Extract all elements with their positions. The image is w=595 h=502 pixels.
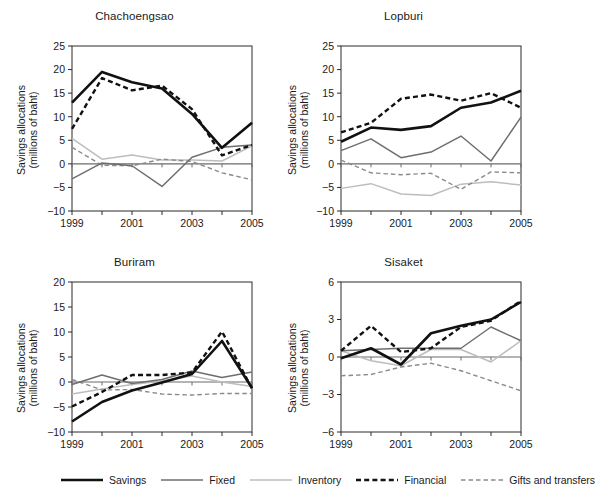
legend-swatch-fixed	[160, 475, 204, 485]
y-tick-label: 15	[53, 301, 65, 313]
y-tick-label: −10	[47, 205, 65, 217]
y-tick-label: 10	[53, 111, 65, 123]
y-tick-label: −5	[322, 181, 334, 193]
y-tick-label: 3	[328, 313, 334, 325]
y-tick-label: −5	[53, 401, 65, 413]
y-tick-label: 15	[53, 87, 65, 99]
y-tick-label: −3	[322, 388, 334, 400]
x-tick-label: 2003	[449, 438, 473, 450]
y-tick-label: 5	[59, 351, 65, 363]
x-tick-label: 2005	[509, 438, 533, 450]
y-tick-label: 5	[328, 134, 334, 146]
legend-label: Savings	[109, 474, 146, 486]
panel-chachoengsao: Chachoengsao Savings allocations (millio…	[0, 0, 269, 251]
y-tick-label: 0	[328, 158, 334, 170]
legend-swatch-inventory	[249, 475, 293, 485]
x-tick-label: 2001	[389, 217, 413, 229]
x-tick-label: 2001	[120, 217, 144, 229]
x-tick-label: 2003	[180, 217, 204, 229]
y-tick-label: 6	[328, 276, 334, 288]
y-tick-label: 25	[322, 40, 334, 52]
plot-area-chachoengsao: −10−505101520251999200120032005	[0, 0, 269, 251]
y-tick-label: −5	[53, 181, 65, 193]
legend-item-fixed: Fixed	[160, 474, 235, 486]
x-tick-label: 2003	[449, 217, 473, 229]
x-tick-label: 1999	[329, 438, 353, 450]
y-tick-label: 5	[59, 134, 65, 146]
y-tick-label: 0	[59, 376, 65, 388]
y-tick-label: −6	[322, 426, 334, 438]
y-tick-label: −10	[316, 205, 334, 217]
x-tick-label: 2001	[389, 438, 413, 450]
legend-label: Fixed	[209, 474, 235, 486]
chart-legend: SavingsFixedInventoryFinancialGifts and …	[0, 466, 538, 502]
x-tick-label: 1999	[60, 438, 84, 450]
y-tick-label: −10	[47, 426, 65, 438]
legend-swatch-savings	[60, 475, 104, 485]
y-tick-label: 0	[59, 158, 65, 170]
y-tick-label: 0	[328, 351, 334, 363]
panel-lopburi: Lopburi Savings allocations (millions of…	[269, 0, 538, 251]
x-tick-label: 2003	[180, 438, 204, 450]
legend-item-financial: Financial	[355, 474, 446, 486]
plot-area-lopburi: −10−505101520251999200120032005	[269, 0, 538, 251]
plot-frame	[72, 282, 252, 432]
y-tick-label: 20	[53, 276, 65, 288]
y-tick-label: 15	[322, 87, 334, 99]
panel-sisaket: Sisaket Savings allocations (millions of…	[269, 251, 538, 466]
x-tick-label: 1999	[329, 217, 353, 229]
legend-swatch-financial	[355, 475, 399, 485]
x-tick-label: 2005	[240, 217, 264, 229]
legend-label: Inventory	[298, 474, 341, 486]
panel-buriram: Buriram Savings allocations (millions of…	[0, 251, 269, 466]
plot-area-sisaket: −6−30361999200120032005	[269, 251, 538, 466]
legend-item-savings: Savings	[60, 474, 146, 486]
legend-item-inventory: Inventory	[249, 474, 341, 486]
y-tick-label: 25	[53, 40, 65, 52]
y-tick-label: 20	[322, 63, 334, 75]
x-tick-label: 1999	[60, 217, 84, 229]
y-tick-label: 10	[322, 111, 334, 123]
x-tick-label: 2001	[120, 438, 144, 450]
legend-swatch-gifts-and-transfers	[460, 475, 504, 485]
x-tick-label: 2005	[509, 217, 533, 229]
x-tick-label: 2005	[240, 438, 264, 450]
y-tick-label: 10	[53, 326, 65, 338]
y-tick-label: 20	[53, 63, 65, 75]
plot-area-buriram: −10−5051015201999200120032005	[0, 251, 269, 466]
legend-item-gifts-and-transfers: Gifts and transfers	[460, 474, 595, 486]
legend-label: Gifts and transfers	[509, 474, 595, 486]
panel-grid: Chachoengsao Savings allocations (millio…	[0, 0, 538, 466]
legend-label: Financial	[404, 474, 446, 486]
